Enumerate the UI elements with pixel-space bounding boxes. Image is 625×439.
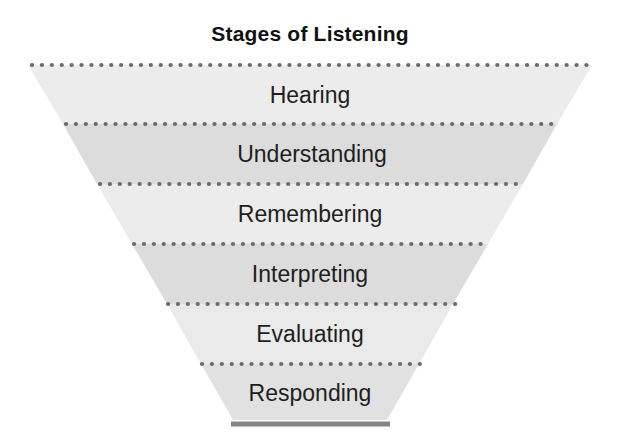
stage-label-hearing: Hearing — [270, 82, 351, 108]
stages-of-listening-funnel: Stages of Listening Hearing Understandin… — [0, 0, 625, 439]
stage-label-evaluating: Evaluating — [256, 321, 363, 347]
diagram-title: Stages of Listening — [211, 22, 409, 45]
funnel-bands — [28, 65, 592, 420]
stage-label-understanding: Understanding — [237, 141, 387, 167]
stage-label-responding: Responding — [249, 380, 372, 406]
stage-label-interpreting: Interpreting — [252, 261, 368, 287]
diagram-canvas: Stages of Listening Hearing Understandin… — [0, 0, 625, 439]
stage-label-remembering: Remembering — [238, 201, 382, 227]
